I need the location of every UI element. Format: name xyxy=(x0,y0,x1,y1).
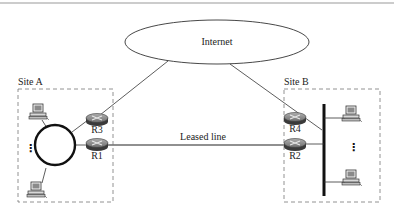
router-r2-label: R2 xyxy=(289,150,301,161)
site-b-label: Site B xyxy=(284,76,309,87)
more-hosts-ellipsis: ⋮ xyxy=(348,141,359,154)
router-r3-label: R3 xyxy=(91,124,103,135)
computer-icon xyxy=(342,106,362,122)
link-r4-internet xyxy=(230,64,322,130)
internet-cloud: Internet xyxy=(125,20,309,64)
more-hosts-ellipsis: ⋮ xyxy=(25,142,36,155)
leased-line-label: Leased line xyxy=(180,131,226,142)
computer-icon xyxy=(27,182,47,198)
internet-label: Internet xyxy=(201,36,232,47)
router-r4-label: R4 xyxy=(289,123,301,134)
network-diagram: Internet Leased line Site A ⋮ R3 R1 Site… xyxy=(0,0,394,221)
router-r1-label: R1 xyxy=(91,150,103,161)
site-a: Site A ⋮ R3 R1 xyxy=(18,76,113,202)
ring-network xyxy=(35,125,75,165)
computer-icon xyxy=(342,170,362,186)
site-b: Site B ⋮ R4 R2 xyxy=(284,76,380,202)
computer-icon xyxy=(29,104,49,120)
link-r3-internet xyxy=(100,61,168,115)
site-a-label: Site A xyxy=(18,76,44,87)
